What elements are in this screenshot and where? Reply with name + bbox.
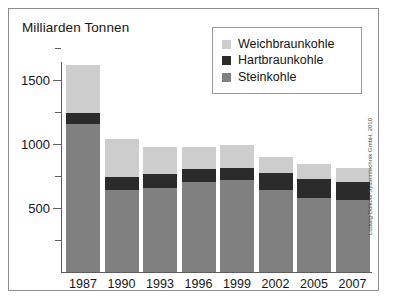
bar-segment-weichbraunkohle xyxy=(66,65,100,114)
legend-label: Steinkohle xyxy=(238,70,296,85)
x-axis-label-1996: 1996 xyxy=(182,277,216,291)
bar-segment-hartbraunkohle xyxy=(297,179,331,198)
bar-segment-hartbraunkohle xyxy=(336,182,370,201)
bar-segment-hartbraunkohle xyxy=(143,174,177,187)
bar-segment-hartbraunkohle xyxy=(259,173,293,190)
x-axis-label-1999: 1999 xyxy=(220,277,254,291)
bar-1993 xyxy=(143,147,177,272)
bar-segment-steinkohle xyxy=(182,182,216,272)
bar-segment-weichbraunkohle xyxy=(336,168,370,181)
x-axis-label-1993: 1993 xyxy=(143,277,177,291)
legend-swatch-icon xyxy=(222,56,231,65)
bar-2002 xyxy=(259,157,293,272)
bar-segment-weichbraunkohle xyxy=(259,157,293,174)
chart-figure: Milliarden Tonnen 50010001500 1987199019… xyxy=(0,0,395,306)
legend-swatch-icon xyxy=(222,73,231,82)
bar-segment-weichbraunkohle xyxy=(105,139,139,177)
bar-segment-steinkohle xyxy=(336,200,370,272)
bar-segment-steinkohle xyxy=(297,198,331,272)
bar-segment-hartbraunkohle xyxy=(220,168,254,181)
legend-swatch-icon xyxy=(222,40,231,49)
bar-segment-steinkohle xyxy=(105,190,139,272)
bar-2005 xyxy=(297,164,331,272)
bar-1996 xyxy=(182,147,216,272)
bar-segment-hartbraunkohle xyxy=(66,113,100,123)
x-axis-label-1990: 1990 xyxy=(105,277,139,291)
bar-segment-weichbraunkohle xyxy=(182,147,216,169)
legend-item-hartbraunkohle: Hartbraunkohle xyxy=(222,53,353,68)
x-axis-label-1987: 1987 xyxy=(66,277,100,291)
legend-item-steinkohle: Steinkohle xyxy=(222,70,353,85)
bar-segment-steinkohle xyxy=(143,188,177,272)
legend-label: Weichbraunkohle xyxy=(238,37,334,52)
bar-segment-weichbraunkohle xyxy=(297,164,331,179)
bar-1987 xyxy=(66,65,100,272)
bar-2007 xyxy=(336,168,370,272)
legend-item-weichbraunkohle: Weichbraunkohle xyxy=(222,37,353,52)
bar-segment-weichbraunkohle xyxy=(143,147,177,175)
bar-segment-hartbraunkohle xyxy=(182,169,216,182)
bar-1990 xyxy=(105,139,139,272)
legend-label: Hartbraunkohle xyxy=(238,53,323,68)
x-axis-label-2007: 2007 xyxy=(336,277,370,291)
x-axis-label-2002: 2002 xyxy=(259,277,293,291)
bar-segment-weichbraunkohle xyxy=(220,145,254,167)
bar-segment-steinkohle xyxy=(220,180,254,272)
credit-text: Ludwig-Bölkow-Systemtechnik GmbH, 2010 xyxy=(367,118,373,235)
bar-segment-steinkohle xyxy=(259,190,293,272)
bar-segment-hartbraunkohle xyxy=(105,177,139,190)
bar-segment-steinkohle xyxy=(66,124,100,272)
bar-1999 xyxy=(220,145,254,272)
chart-legend: WeichbraunkohleHartbraunkohleSteinkohle xyxy=(212,27,362,94)
x-axis-label-2005: 2005 xyxy=(297,277,331,291)
